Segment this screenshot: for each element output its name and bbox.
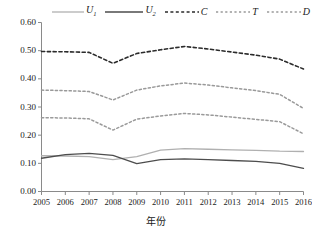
x-tick-label: 2015 xyxy=(269,198,291,207)
x-tick-label: 2007 xyxy=(78,198,100,207)
x-tick-label: 2012 xyxy=(197,198,219,207)
x-tick-label: 2013 xyxy=(221,198,243,207)
y-tick-label: 0.40 xyxy=(6,74,36,83)
x-tick-label: 2008 xyxy=(102,198,124,207)
series-line-c xyxy=(42,46,304,69)
x-axis-title: 年份 xyxy=(0,216,312,227)
series-line-u2 xyxy=(42,153,304,168)
y-tick-label: 0.30 xyxy=(6,103,36,112)
x-tick-label: 2006 xyxy=(54,198,76,207)
y-tick-label: 0.60 xyxy=(6,18,36,27)
y-tick-label: 0.00 xyxy=(6,187,36,196)
x-tick-label: 2014 xyxy=(245,198,267,207)
line-chart: U1 U2 C T D xyxy=(0,0,312,236)
series-line-d xyxy=(42,113,304,133)
x-tick-label: 2009 xyxy=(126,198,148,207)
y-tick-label: 0.50 xyxy=(6,46,36,55)
x-tick-label: 2010 xyxy=(150,198,172,207)
x-tick-label: 2005 xyxy=(31,198,53,207)
y-tick-label: 0.10 xyxy=(6,159,36,168)
y-tick-label: 0.20 xyxy=(6,131,36,140)
series-line-t xyxy=(42,83,304,108)
x-tick-label: 2016 xyxy=(293,198,313,207)
x-tick-label: 2011 xyxy=(173,198,195,207)
